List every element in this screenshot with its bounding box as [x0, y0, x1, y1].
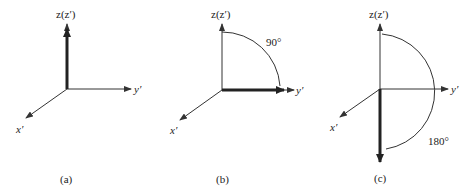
panel-c: z(z′) y′ x′ 180° (c) [329, 8, 459, 185]
panel-caption: (b) [216, 173, 229, 186]
y-axis-label: y′ [450, 83, 459, 95]
angle-label: 90° [266, 36, 281, 48]
x-axis [340, 89, 380, 117]
x-axis [180, 90, 222, 120]
x-axis-label: x′ [329, 121, 338, 133]
rotation-arc [382, 34, 435, 149]
z-axis-label: z(z′) [56, 8, 76, 21]
panel-caption: (a) [60, 173, 73, 186]
x-axis-label: x′ [169, 124, 178, 136]
angle-label: 180° [428, 135, 449, 147]
x-axis-label: x′ [15, 123, 24, 135]
panel-a: z(z′) y′ x′ (a) [15, 8, 142, 186]
z-axis-label: z(z′) [369, 8, 389, 21]
panel-caption: (c) [374, 172, 387, 185]
y-axis-label: y′ [133, 83, 142, 95]
panel-b: z(z′) y′ x′ 90° (b) [169, 8, 304, 186]
diagram-canvas: z(z′) y′ x′ (a) z(z′) y′ x′ 90° (b) z(z′… [0, 0, 472, 194]
rotation-diagram: z(z′) y′ x′ (a) z(z′) y′ x′ 90° (b) z(z′… [0, 0, 472, 194]
z-axis-label: z(z′) [211, 8, 231, 21]
x-axis [26, 89, 67, 118]
y-axis-label: y′ [295, 84, 304, 96]
